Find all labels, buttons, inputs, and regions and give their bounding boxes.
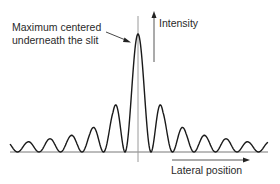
lateral-position-label: Lateral position [171, 164, 242, 177]
maximum-annotation: Maximum centered underneath the slit [12, 21, 101, 47]
annotation-line-2: underneath the slit [12, 34, 101, 47]
right-arrowhead-icon [243, 158, 250, 163]
intensity-curve [10, 34, 268, 152]
intensity-label: Intensity [159, 17, 198, 30]
up-arrowhead-icon [152, 11, 157, 18]
diffraction-diagram: Maximum centered underneath the slit Int… [0, 0, 280, 184]
pointer-arrowhead-icon [123, 38, 131, 43]
annotation-line-1: Maximum centered [12, 21, 101, 34]
